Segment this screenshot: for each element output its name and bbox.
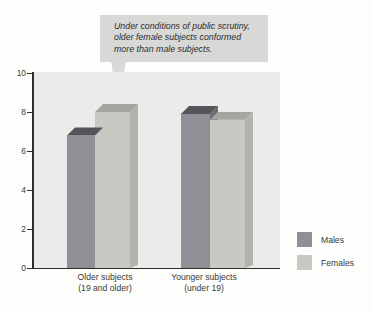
y-tick-mark-6	[27, 151, 33, 152]
legend-label-females: Females	[321, 258, 354, 268]
y-tick-label-4: 4	[4, 185, 26, 195]
y-tick-label-6: 6	[4, 146, 26, 156]
y-tick-mark-8	[27, 112, 33, 113]
y-axis-line	[32, 72, 34, 269]
x-category-label-1: Younger subjects(under 19)	[148, 272, 260, 294]
bar-side-females-0	[130, 104, 138, 268]
y-tick-label-0: 0	[4, 263, 26, 273]
y-tick-label-2: 2	[4, 224, 26, 234]
legend-label-males: Males	[321, 235, 344, 245]
bar-front-males-0	[67, 135, 95, 268]
callout-line-3: more than male subjects.	[114, 44, 260, 55]
y-tick-mark-4	[27, 190, 33, 191]
x-category-label-line: (under 19)	[148, 283, 260, 294]
legend-swatch-males	[297, 232, 312, 247]
x-category-label-line: Younger subjects	[148, 272, 260, 283]
y-tick-mark-0	[27, 268, 33, 269]
legend: MalesFemales	[297, 232, 354, 270]
bar-front-males-1	[181, 114, 210, 268]
figure-canvas: Under conditions of public scrutiny, old…	[0, 0, 371, 312]
bar-front-females-1	[210, 120, 245, 268]
y-tick-mark-2	[27, 229, 33, 230]
y-tick-mark-10	[27, 73, 33, 74]
y-tick-label-8: 8	[4, 107, 26, 117]
legend-swatch-females	[297, 255, 312, 270]
callout-bubble: Under conditions of public scrutiny, old…	[100, 15, 268, 62]
legend-item-males: Males	[297, 232, 354, 247]
bar-front-females-0	[95, 112, 130, 268]
callout-line-2: older female subjects conformed	[114, 32, 260, 43]
legend-item-females: Females	[297, 255, 354, 270]
callout-line-1: Under conditions of public scrutiny,	[114, 21, 260, 32]
y-tick-label-10: 10	[4, 68, 26, 78]
bar-side-females-1	[245, 112, 253, 268]
